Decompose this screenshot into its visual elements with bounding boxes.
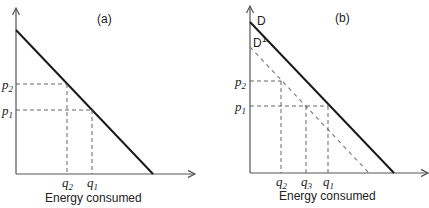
price-label-p2-b: p2 bbox=[234, 74, 247, 91]
curve-label-d1: D1 bbox=[253, 34, 267, 50]
price-label-p2-a: p2 bbox=[1, 77, 14, 94]
demand-curve-d bbox=[250, 22, 394, 173]
panel-title-a: (a) bbox=[97, 12, 112, 26]
quantity-label-q1-a: q1 bbox=[87, 175, 98, 192]
x-axis-label-b: Energy consumed bbox=[279, 189, 376, 203]
panel-b: (b) D D1 p2 p1 q2 q3 q1 Energy consumed bbox=[234, 6, 428, 203]
x-axis-label-a: Energy consumed bbox=[45, 191, 142, 205]
panel-title-b: (b) bbox=[335, 11, 350, 25]
price-label-p1-a: p1 bbox=[1, 103, 13, 120]
curve-label-d: D bbox=[257, 14, 266, 28]
demand-diagram: (a) p2 p1 q2 q1 Energy consumed (b) D D1… bbox=[0, 0, 429, 208]
quantity-label-q2-a: q2 bbox=[62, 175, 74, 192]
demand-curve-a bbox=[16, 30, 153, 174]
panel-a: (a) p2 p1 q2 q1 Energy consumed bbox=[1, 8, 195, 205]
demand-curve-d1 bbox=[250, 47, 369, 173]
price-label-p1-b: p1 bbox=[234, 99, 246, 116]
